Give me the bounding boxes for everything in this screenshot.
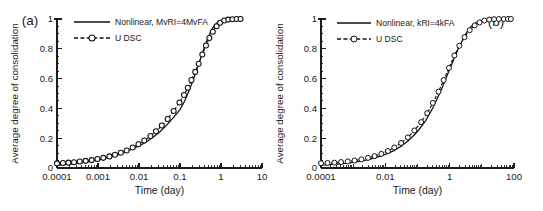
y-tick-label: 1 (48, 13, 53, 24)
data-point-marker (95, 157, 100, 162)
data-point-marker (482, 18, 487, 23)
legend-label: U DSC (376, 34, 403, 44)
data-point-marker (72, 160, 77, 165)
x-tick-label: 0.0001 (42, 171, 71, 182)
data-point-marker (405, 135, 410, 140)
data-point-marker (207, 36, 212, 41)
data-point-marker (200, 52, 205, 57)
data-point-marker (181, 92, 186, 97)
data-point-marker (203, 43, 208, 48)
chart-panel-b: 00.20.40.60.810.00010.011100Time (day)Av… (271, 0, 543, 211)
x-tick-label: 10 (257, 171, 268, 182)
x-tick-label: 100 (506, 171, 522, 182)
data-point-marker (508, 17, 513, 22)
data-point-marker (165, 116, 170, 121)
data-point-marker (419, 120, 424, 125)
data-point-marker (339, 160, 344, 165)
panel-a-plot: 00.20.40.60.810.00010.0010.010.1110Time … (0, 0, 271, 211)
data-point-marker (345, 159, 350, 164)
x-axis-title: Time (day) (393, 185, 442, 196)
y-tick-label: 0.8 (40, 43, 53, 54)
y-axis-title: Average degree of consolidation (274, 23, 285, 163)
data-point-marker (154, 129, 159, 134)
data-point-marker (55, 161, 60, 166)
data-point-marker (177, 100, 182, 105)
data-point-marker (446, 65, 451, 70)
data-point-marker (399, 140, 404, 145)
data-point-marker (477, 20, 482, 25)
data-point-marker (319, 161, 324, 166)
chart-panel-a: 00.20.40.60.810.00010.0010.010.1110Time … (0, 0, 271, 211)
x-tick-label: 1 (447, 171, 452, 182)
data-point-marker (325, 160, 330, 165)
y-tick-label: 0.4 (40, 103, 54, 114)
data-point-marker (492, 17, 497, 22)
legend-label: U DSC (115, 33, 142, 43)
data-point-marker (462, 35, 467, 40)
data-point-marker (467, 28, 472, 33)
panel-tag: (a) (22, 13, 39, 28)
data-point-marker (372, 154, 377, 159)
data-point-marker (487, 17, 492, 22)
figure-container: 00.20.40.60.810.00010.0010.010.1110Time … (0, 0, 543, 211)
y-tick-label: 0.2 (40, 133, 53, 144)
data-point-marker (142, 138, 147, 143)
data-point-marker (385, 149, 390, 154)
y-tick-label: 0.2 (304, 133, 317, 144)
data-point-marker (196, 61, 201, 66)
data-point-marker (193, 69, 198, 74)
y-tick-label: 0.6 (304, 73, 317, 84)
data-point-marker (159, 123, 164, 128)
data-point-marker (412, 128, 417, 133)
data-point-marker (185, 85, 190, 90)
data-point-marker (113, 152, 118, 157)
data-point-marker (189, 78, 194, 83)
legend-marker (89, 35, 95, 41)
series-line-nonlinear (57, 19, 241, 165)
data-point-marker (452, 53, 457, 58)
data-point-marker (457, 43, 462, 48)
data-point-marker (238, 17, 243, 22)
data-point-marker (436, 89, 441, 94)
legend-marker (351, 36, 357, 42)
x-tick-label: 0.0001 (306, 171, 335, 182)
y-tick-label: 0.8 (304, 43, 317, 54)
x-tick-label: 0.001 (86, 171, 110, 182)
y-tick-label: 1 (312, 13, 317, 24)
x-tick-label: 1 (218, 171, 223, 182)
data-point-marker (210, 29, 215, 34)
data-point-marker (101, 155, 106, 160)
x-tick-label: 0.1 (173, 171, 186, 182)
data-point-marker (66, 160, 71, 165)
data-point-marker (392, 145, 397, 150)
data-point-marker (60, 161, 65, 166)
series-line-dsc (57, 19, 241, 163)
legend-label: Nonlinear, kRI=4kFA (376, 18, 455, 28)
series-line-dsc (321, 19, 511, 163)
data-point-marker (83, 158, 88, 163)
y-tick-label: 0.6 (40, 73, 53, 84)
data-point-marker (425, 111, 430, 116)
data-point-marker (441, 78, 446, 83)
data-point-marker (379, 151, 384, 156)
data-point-marker (430, 100, 435, 105)
data-point-marker (148, 133, 153, 138)
data-point-marker (89, 158, 94, 163)
series-line-nonlinear (321, 19, 511, 165)
x-axis-title: Time (day) (135, 185, 184, 196)
y-axis-title: Average degree of consolidation (9, 23, 20, 163)
panel-b-plot: 00.20.40.60.810.00010.011100Time (day)Av… (271, 0, 543, 211)
data-point-marker (77, 159, 82, 164)
x-tick-label: 0.01 (130, 171, 149, 182)
data-point-marker (366, 155, 371, 160)
data-point-marker (136, 142, 141, 147)
data-point-marker (171, 108, 176, 113)
y-tick-label: 0.4 (304, 103, 318, 114)
legend-label: Nonlinear, MvRI=4MvFA (115, 17, 208, 27)
x-tick-label: 0.01 (376, 171, 395, 182)
data-point-marker (472, 23, 477, 28)
data-point-marker (130, 145, 135, 150)
data-point-marker (107, 154, 112, 159)
data-point-marker (124, 148, 129, 153)
data-point-marker (118, 150, 123, 155)
